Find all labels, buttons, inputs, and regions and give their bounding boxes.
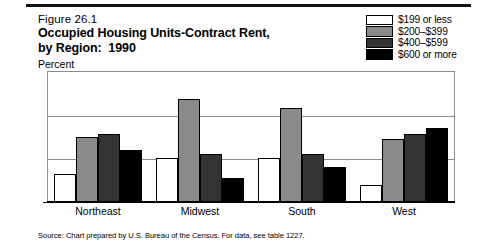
bars-layer (47, 71, 455, 202)
bar (156, 158, 178, 202)
legend-swatch-icon (366, 26, 393, 37)
legend-swatch-icon (366, 15, 393, 26)
chart-legend: $199 or less$200–$399$400–$599$600 or mo… (366, 14, 472, 60)
bar-group (251, 71, 353, 202)
bar (426, 128, 448, 202)
bar-group (353, 71, 455, 202)
bar (120, 150, 142, 202)
bar-group (149, 71, 251, 202)
legend-item: $199 or less (366, 14, 472, 26)
bar (76, 137, 98, 203)
bar (382, 139, 404, 202)
legend-swatch-icon (366, 38, 393, 49)
bar (54, 174, 76, 202)
legend-swatch-icon (366, 49, 393, 60)
source-note: Source: Chart prepared by U.S. Bureau of… (38, 231, 305, 240)
bar (302, 154, 324, 202)
y-axis-unit-label: Percent (38, 58, 74, 70)
bar (280, 108, 302, 202)
bar (200, 154, 222, 202)
x-axis-group-label: West (353, 205, 455, 217)
x-axis-group-label: South (251, 205, 353, 217)
bar (98, 134, 120, 202)
bar (178, 99, 200, 202)
legend-item: $600 or more (366, 49, 472, 61)
bar (324, 167, 346, 202)
x-axis-group-label: Northeast (47, 205, 149, 217)
page-title: Occupied Housing Units-Contract Rent, by… (38, 26, 270, 55)
legend-label: $400–$599 (398, 37, 448, 48)
legend-item: $200–$399 (366, 26, 472, 38)
legend-label: $600 or more (398, 49, 457, 60)
legend-label: $200–$399 (398, 26, 448, 37)
bar (258, 158, 280, 202)
x-axis-group-label: Midwest (149, 205, 251, 217)
chart-title-line-2: by Region: 1990 (38, 41, 136, 55)
legend-item: $400–$599 (366, 37, 472, 49)
legend-label: $199 or less (398, 14, 452, 25)
top-divider-rule (26, 4, 471, 7)
bar (404, 134, 426, 202)
bar (360, 185, 382, 202)
chart-title-line-1: Occupied Housing Units-Contract Rent, (38, 26, 270, 40)
bar (222, 178, 244, 202)
y-axis-tick-mark (43, 202, 47, 203)
bar-group (47, 71, 149, 202)
figure-number: Figure 26.1 (38, 13, 97, 25)
